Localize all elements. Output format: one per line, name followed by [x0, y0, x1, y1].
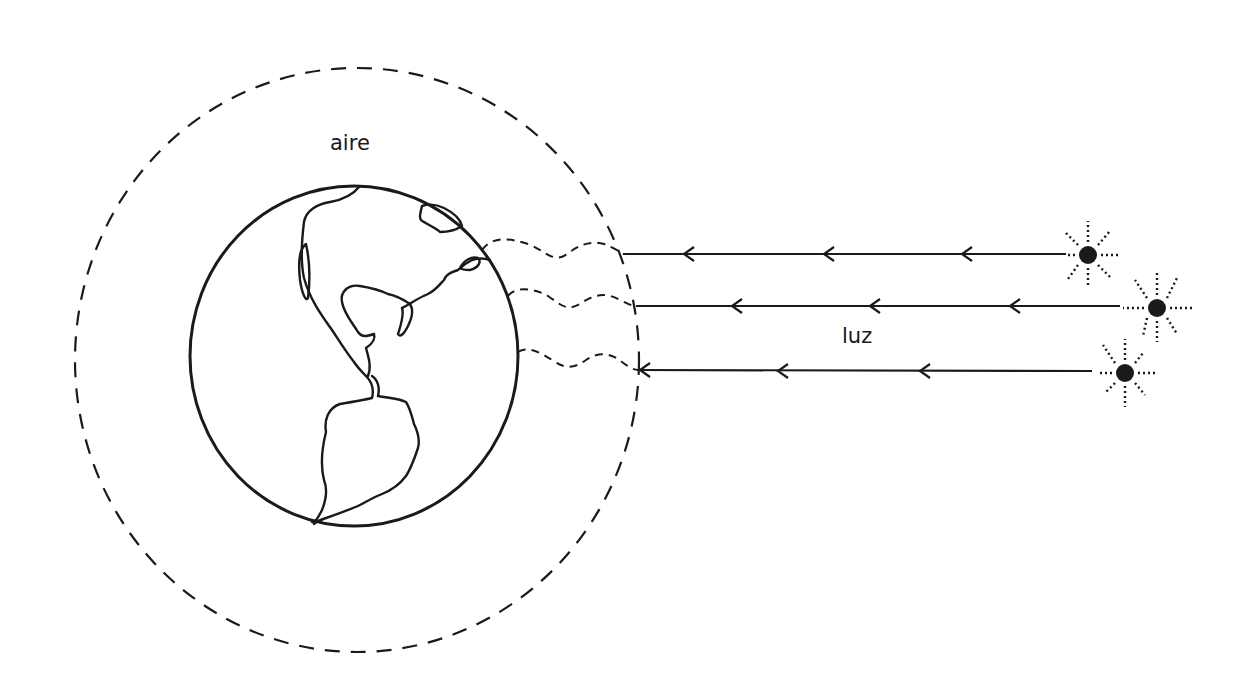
- sun-icon: [1123, 272, 1193, 342]
- atmosphere-label: aire: [330, 131, 370, 155]
- sun-icon: [1066, 221, 1118, 287]
- atmosphere-light-diagram: aire: [0, 0, 1258, 678]
- light-ray-3: [638, 370, 1092, 371]
- sun-icon: [1097, 339, 1157, 407]
- light-rays: [623, 247, 1120, 378]
- earth-globe: [190, 186, 518, 526]
- light-label: luz: [842, 324, 872, 348]
